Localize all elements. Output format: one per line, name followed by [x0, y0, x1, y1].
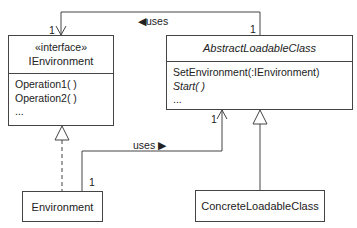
operation-ellipsis: ... — [173, 93, 346, 107]
operation-abstract: Start( ) — [173, 80, 346, 94]
operation: Operation2( ) — [15, 92, 107, 106]
operations-compartment: Operation1( ) Operation2( ) ... — [9, 73, 113, 123]
multiplicity-label: 1 — [89, 176, 95, 188]
uses-label-bottom: uses ▶ — [133, 139, 166, 151]
uses-label-top: ◀uses — [138, 15, 168, 27]
class-concrete-loadable[interactable]: ConcreteLoadableClass — [195, 190, 325, 222]
multiplicity-label: 1 — [49, 24, 55, 36]
hollow-triangle-icon — [55, 126, 69, 140]
class-ienvironment[interactable]: «interface» IEnvironment Operation1( ) O… — [8, 35, 114, 126]
class-environment[interactable]: Environment — [22, 191, 103, 222]
operation: SetEnvironment(:IEnvironment) — [173, 66, 346, 80]
multiplicity-label: 1 — [211, 113, 217, 125]
operation-ellipsis: ... — [15, 105, 107, 119]
stereotype-label: «interface» — [9, 40, 113, 54]
class-name: AbstractLoadableClass — [167, 41, 352, 55]
class-name: IEnvironment — [9, 54, 113, 68]
class-name: Environment — [32, 201, 94, 213]
hollow-triangle-icon — [253, 110, 267, 124]
class-abstract-loadable[interactable]: AbstractLoadableClass SetEnvironment(:IE… — [166, 35, 353, 110]
class-name: ConcreteLoadableClass — [201, 200, 318, 212]
operation: Operation1( ) — [15, 78, 107, 92]
operations-compartment: SetEnvironment(:IEnvironment) Start( ) .… — [167, 61, 352, 111]
class-header: «interface» IEnvironment — [9, 36, 113, 73]
multiplicity-label: 1 — [250, 23, 256, 35]
class-header: AbstractLoadableClass — [167, 36, 352, 61]
